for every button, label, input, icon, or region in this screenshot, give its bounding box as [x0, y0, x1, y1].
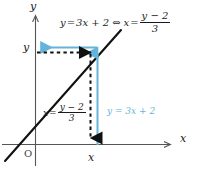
- function-inverse-diagram: y x O y x y=3x + 2⇔x=y − 23 x=y − 23 y =…: [0, 0, 199, 176]
- forward-equation-label: y = 3x + 2: [107, 107, 155, 116]
- top-eq-denominator: 3: [140, 23, 171, 35]
- y-value-label: y: [23, 42, 29, 53]
- top-eq-fraction: y − 23: [140, 10, 171, 34]
- top-equation: y=3x + 2⇔x=y − 23: [60, 11, 170, 35]
- top-eq-numerator: y − 2: [140, 10, 171, 23]
- iff-symbol: ⇔: [109, 17, 123, 28]
- top-eq-left-rhs: 3x + 2: [76, 17, 109, 28]
- inverse-eq-equals: =: [48, 108, 58, 118]
- y-axis-label: y: [30, 1, 36, 12]
- x-axis-label: x: [180, 133, 186, 144]
- inverse-eq-numerator: y − 2: [58, 102, 86, 113]
- inverse-eq-denominator: 3: [58, 113, 86, 123]
- top-eq-left-equals: =: [66, 17, 76, 28]
- x-value-label: x: [88, 152, 94, 163]
- top-eq-right-equals: =: [129, 17, 139, 28]
- inverse-equation-label: x=y − 23: [43, 103, 86, 125]
- origin-label: O: [24, 149, 32, 159]
- top-eq-left-lhs: y: [60, 17, 66, 28]
- inverse-eq-fraction: y − 23: [58, 102, 86, 124]
